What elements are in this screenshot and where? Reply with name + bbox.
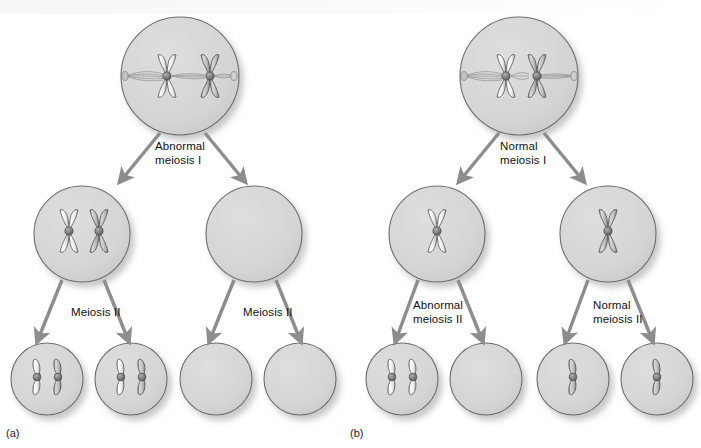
label-normal-meiosis-1-line2: meiosis I bbox=[500, 154, 546, 167]
gamete-b-4[interactable] bbox=[621, 343, 693, 415]
secondary-cell-a-left[interactable] bbox=[34, 186, 130, 282]
label-normal-meiosis-2-line1: Normal bbox=[593, 299, 631, 312]
label-abnormal-meiosis-2-line2: meiosis II bbox=[413, 313, 463, 326]
gamete-b-3[interactable] bbox=[537, 343, 609, 415]
arrow-layer bbox=[39, 133, 651, 337]
label-meiosis-2-a-right: Meiosis II bbox=[243, 306, 293, 319]
secondary-cell-b-right[interactable] bbox=[560, 186, 656, 282]
label-meiosis-2-a-left: Meiosis II bbox=[71, 306, 121, 319]
gamete-b-2[interactable] bbox=[450, 343, 522, 415]
panel-label-b: (b) bbox=[350, 427, 363, 439]
secondary-cell-a-right[interactable] bbox=[206, 186, 302, 282]
label-abnormal-meiosis-1-line2: meiosis I bbox=[155, 154, 201, 167]
gamete-a-3[interactable] bbox=[180, 343, 252, 415]
primary-cell-b[interactable] bbox=[460, 17, 578, 135]
panel-b bbox=[366, 17, 693, 415]
gamete-a-4[interactable] bbox=[264, 343, 336, 415]
arrow-b-meiosis1-right bbox=[544, 133, 581, 178]
arrow-b-meiosis2-right-1 bbox=[567, 280, 588, 337]
figure-canvas: Abnormal meiosis I Meiosis II Meiosis II… bbox=[0, 0, 701, 448]
panel-label-a: (a) bbox=[6, 427, 19, 439]
label-abnormal-meiosis-1-line1: Abnormal bbox=[155, 140, 205, 153]
gamete-a-2[interactable] bbox=[95, 343, 167, 415]
gamete-a-1[interactable] bbox=[11, 343, 83, 415]
secondary-cell-b-left[interactable] bbox=[389, 186, 485, 282]
gamete-b-1[interactable] bbox=[366, 343, 438, 415]
label-normal-meiosis-2-line2: meiosis II bbox=[593, 313, 643, 326]
label-abnormal-meiosis-2-line1: Abnormal bbox=[413, 299, 463, 312]
arrow-a-meiosis2-right-1 bbox=[211, 280, 234, 337]
arrow-a-meiosis1-right bbox=[205, 133, 242, 178]
label-normal-meiosis-1-line1: Normal bbox=[500, 140, 538, 153]
panel-a bbox=[11, 17, 336, 415]
arrow-b-meiosis2-right-2 bbox=[628, 280, 651, 337]
arrow-b-meiosis1-left bbox=[462, 133, 499, 178]
primary-cell-a[interactable] bbox=[121, 17, 239, 135]
meiosis-nondisjunction-diagram bbox=[0, 0, 701, 448]
arrow-a-meiosis2-left-1 bbox=[39, 280, 62, 337]
